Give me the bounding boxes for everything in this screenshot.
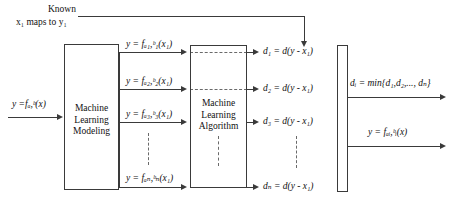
modeling-box-line3: Modeling <box>65 126 118 138</box>
input-arrowhead <box>57 114 63 120</box>
distance-n-line <box>247 187 254 188</box>
modeling-box-line1: Machine <box>65 103 118 115</box>
machine-learning-modeling-box: Machine Learning Modeling <box>64 44 119 190</box>
algorithm-box-line3: Algorithm <box>191 121 246 133</box>
model-branch-bus <box>119 52 120 187</box>
distance-2-line <box>247 89 254 90</box>
input-arrow-line <box>8 117 58 118</box>
ml-modeling-flow-diagram: Known x₁ maps to y₁ y =fₐ,ᵇ(x) Machine L… <box>0 0 450 212</box>
modeling-box-line2: Learning <box>65 115 118 127</box>
best-function-label: y = fₐᵢ,ᵇᵢ(x) <box>368 127 407 138</box>
model-branch-2-arrowhead <box>181 86 187 92</box>
model-branch-2-label: y = fₐ₂,ᵇ₂(x₁) <box>126 76 172 87</box>
distance-3-label: d₃ = d(y - x₁) <box>263 116 313 127</box>
min-distance-arrowhead <box>440 94 446 100</box>
model-branch-1-arrowhead <box>181 49 187 55</box>
model-branch-ellipsis <box>148 133 149 165</box>
algorithm-box-ellipsis <box>218 136 219 166</box>
model-branch-1-label: y = fₐ₁,ᵇ₁(x₁) <box>126 39 172 50</box>
model-branch-n-label: y = fₐₙ,ᵇₙ(x₁) <box>126 173 173 184</box>
distance-1-label: d₁ = d(y - x₁) <box>263 46 313 57</box>
algorithm-box-line2: Learning <box>191 110 246 122</box>
model-branch-n-arrowhead <box>181 184 187 190</box>
model-branch-1-line <box>119 52 182 53</box>
distance-ellipsis <box>296 136 297 168</box>
algorithm-box-line1: Machine <box>191 98 246 110</box>
min-distance-label: dᵢ = min{d₁,d₂,..., dₙ} <box>350 78 431 89</box>
distance-n-label: dₙ = d(y - x₁) <box>263 181 314 192</box>
distance-3-line <box>247 122 254 123</box>
model-branch-n-line <box>119 187 182 188</box>
model-branch-2-line <box>119 89 182 90</box>
known-note-line1: Known <box>48 4 76 15</box>
min-distance-arrow-line <box>348 97 441 98</box>
minimum-selector-bar <box>337 45 348 192</box>
known-feedback-line <box>78 16 304 17</box>
machine-learning-algorithm-box: Machine Learning Algorithm <box>190 45 247 188</box>
known-note-line2: x₁ maps to y₁ <box>16 17 67 28</box>
known-feedback-drop <box>304 16 305 42</box>
model-branch-3-arrowhead <box>181 119 187 125</box>
model-branch-3-label: y = fₐ₃,ᵇ₃(x₁) <box>126 109 172 120</box>
best-function-arrowhead <box>440 143 446 149</box>
model-branch-3-line <box>119 122 182 123</box>
distance-2-label: d₂ = d(y - x₁) <box>263 83 313 94</box>
input-label: y =fₐ,ᵇ(x) <box>12 99 46 110</box>
best-function-arrow-line <box>348 146 441 147</box>
distance-1-line <box>247 52 254 53</box>
